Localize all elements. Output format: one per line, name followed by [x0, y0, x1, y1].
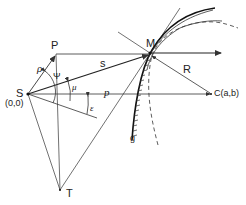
- point-c-dot: [210, 93, 212, 95]
- angle-epsilon-arc: [87, 96, 88, 114]
- label-c: C(a,b): [214, 89, 239, 98]
- segment-s: [28, 55, 148, 94]
- label-rho: ρ: [37, 63, 42, 74]
- label-mu: μ: [72, 83, 77, 92]
- epsilon-line: [28, 94, 97, 118]
- label-s-segment: s: [100, 58, 106, 69]
- label-t: T: [66, 188, 73, 199]
- label-p-segment: p: [104, 87, 110, 98]
- point-s-dot: [26, 92, 29, 95]
- label-m: M: [146, 38, 155, 49]
- osculating-circle: [149, 22, 238, 145]
- geometry-diagram: [0, 0, 246, 205]
- angle-mu-arc: [68, 81, 70, 101]
- point-t-dot: [59, 189, 61, 191]
- label-r: R: [183, 64, 191, 75]
- curve-g-inner: [148, 10, 213, 58]
- label-g: g: [130, 134, 135, 143]
- segment-r: [152, 56, 210, 93]
- label-epsilon: ε: [90, 104, 94, 113]
- curve-g-hatching: [133, 60, 150, 136]
- label-s-coords: (0,0): [5, 99, 24, 108]
- label-psi: Ψ: [53, 72, 61, 81]
- point-m-dot: [148, 51, 151, 54]
- segment-s-t: [28, 94, 60, 190]
- label-p: P: [51, 40, 58, 51]
